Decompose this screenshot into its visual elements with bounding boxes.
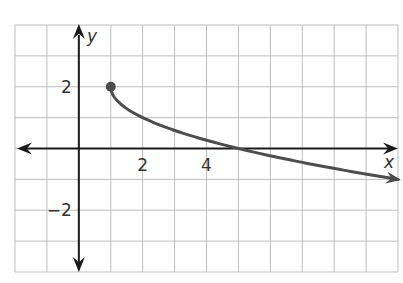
start-point-closed-dot	[106, 82, 116, 92]
x-axis-label: x	[383, 152, 395, 172]
axes	[17, 24, 398, 272]
y-axis-label: y	[86, 26, 98, 46]
y-tick-label: −2	[47, 200, 72, 220]
y-tick-label: 2	[61, 77, 72, 97]
x-tick-label: 4	[201, 155, 212, 175]
curve-path	[111, 87, 398, 180]
function-curve	[106, 82, 401, 184]
coordinate-plane: 242−2 x y	[0, 0, 403, 283]
x-tick-label: 2	[137, 155, 148, 175]
